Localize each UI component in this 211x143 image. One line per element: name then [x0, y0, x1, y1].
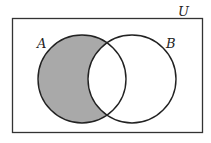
universe-label: U: [178, 4, 190, 19]
set-a-label: A: [36, 36, 46, 51]
venn-diagram: U A B: [0, 0, 211, 143]
set-b-label: B: [165, 36, 176, 51]
